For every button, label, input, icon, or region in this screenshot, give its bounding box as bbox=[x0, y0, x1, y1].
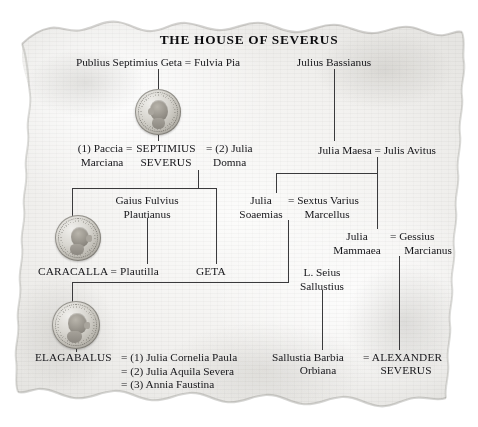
chart-labels: THE HOUSE OF SEVERUS Publius Septimius G… bbox=[0, 0, 478, 427]
node-alexander-severus-line1: = ALEXANDER bbox=[363, 351, 442, 363]
node-septimius-severus-line1: SEPTIMIUS bbox=[136, 142, 196, 154]
node-sextus-varius-marcellus-line2: Marcellus bbox=[304, 208, 349, 220]
node-julia-domna-line1: = (2) Julia bbox=[206, 142, 253, 154]
node-elagabalus-wife-3: = (3) Annia Faustina bbox=[121, 378, 214, 390]
node-elagabalus-wife-2: = (2) Julia Aquila Severa bbox=[121, 365, 234, 377]
node-sextus-varius-marcellus-line1: = Sextus Varius bbox=[288, 194, 359, 206]
severan-dynasty-family-tree: THE HOUSE OF SEVERUS Publius Septimius G… bbox=[0, 0, 478, 427]
node-sallustia-barbia-orbiana-line1: Sallustia Barbia bbox=[272, 351, 344, 363]
page-title: THE HOUSE OF SEVERUS bbox=[160, 34, 339, 46]
node-geta: GETA bbox=[196, 265, 226, 277]
node-alexander-severus-line2: SEVERUS bbox=[380, 364, 431, 376]
node-julia-maesa-julis-avitus: Julia Maesa = Julis Avitus bbox=[318, 144, 436, 156]
node-julia-mammaea-line2: Mammaea bbox=[333, 244, 381, 256]
node-julia-soaemias-line1: Julia bbox=[250, 194, 271, 206]
node-gessius-marcianus-line1: = Gessius bbox=[390, 230, 434, 242]
node-elagabalus: ELAGABALUS bbox=[35, 351, 112, 363]
node-sallustia-barbia-orbiana-line2: Orbiana bbox=[300, 364, 336, 376]
node-publius-septimius-geta-fulvia-pia: Publius Septimius Geta = Fulvia Pia bbox=[76, 56, 240, 68]
node-septimius-severus-line2: SEVERUS bbox=[140, 156, 191, 168]
node-julius-bassianus: Julius Bassianus bbox=[297, 56, 371, 68]
node-gessius-marcianus-line2: Marcianus bbox=[404, 244, 452, 256]
node-julia-domna-line2: Domna bbox=[213, 156, 246, 168]
node-paccia-marciana-line2: Marciana bbox=[81, 156, 124, 168]
node-caracalla-plautilla: CARACALLA = Plautilla bbox=[38, 265, 159, 277]
node-paccia-marciana-line1: (1) Paccia = bbox=[78, 142, 133, 154]
node-gaius-fulvius-plautianus-line2: Plautianus bbox=[123, 208, 170, 220]
node-julia-mammaea-line1: Julia bbox=[346, 230, 367, 242]
node-gaius-fulvius-plautianus-line1: Gaius Fulvius bbox=[115, 194, 178, 206]
node-julia-soaemias-line2: Soaemias bbox=[239, 208, 282, 220]
node-elagabalus-wife-1: = (1) Julia Cornelia Paula bbox=[121, 351, 237, 363]
node-l-seius-sallustius-line1: L. Seius bbox=[303, 266, 340, 278]
node-l-seius-sallustius-line2: Sallustius bbox=[300, 280, 344, 292]
